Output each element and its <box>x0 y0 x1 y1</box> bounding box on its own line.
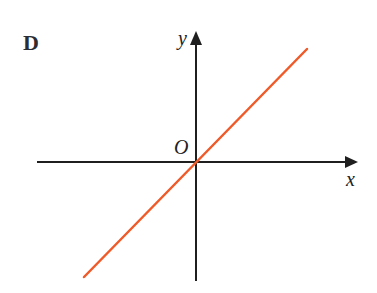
origin-label: O <box>174 136 188 159</box>
y-axis-label: y <box>178 27 187 50</box>
y-axis-arrow-icon <box>190 31 202 45</box>
graph-figure: D y x O <box>0 0 377 293</box>
x-axis-label: x <box>346 168 355 191</box>
coordinate-plane <box>0 0 377 293</box>
x-axis-arrow-icon <box>345 156 358 168</box>
